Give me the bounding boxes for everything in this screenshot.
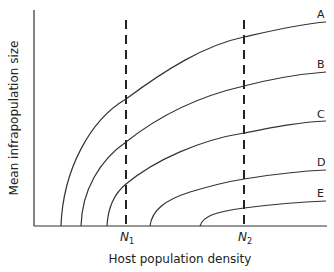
chart: A B C D E N 1 N 2 Host population densit…	[0, 0, 334, 272]
y-axis-title: Mean infrapopulation size	[7, 41, 21, 196]
curve-d	[150, 170, 326, 226]
curve-d-label: D	[317, 156, 325, 169]
n2-subscript: 2	[247, 237, 252, 246]
x-axis-title: Host population density	[109, 252, 252, 266]
curve-a-label: A	[317, 8, 325, 21]
curve-c	[107, 121, 326, 226]
curve-c-label: C	[317, 108, 325, 121]
curve-e	[200, 201, 326, 226]
curve-a	[61, 22, 326, 226]
curve-b-label: B	[317, 58, 325, 71]
n1-label: N	[120, 230, 129, 244]
n2-label: N	[238, 230, 247, 244]
curve-e-label: E	[317, 187, 324, 200]
n1-subscript: 1	[129, 237, 134, 246]
